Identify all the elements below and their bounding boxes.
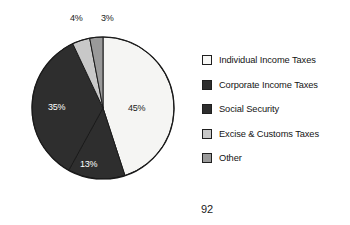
pie-chart-area: 45%13%35%4%3%	[0, 0, 200, 200]
legend-swatch-corporate-income-taxes	[202, 80, 212, 90]
pie-label-excise-customs-taxes: 4%	[70, 13, 83, 23]
legend-item-corporate-income-taxes[interactable]: Corporate Income Taxes	[202, 73, 350, 98]
chart-legend: Individual Income TaxesCorporate Income …	[202, 48, 350, 171]
pie-chart-svg	[0, 0, 200, 200]
legend-swatch-other	[202, 153, 212, 163]
legend-label: Excise & Customs Taxes	[219, 129, 319, 139]
pie-label-individual-income-taxes: 45%	[128, 103, 145, 113]
pie-label-corporate-income-taxes: 13%	[80, 159, 97, 169]
page-number: 92	[201, 203, 213, 215]
legend-swatch-individual-income-taxes	[202, 55, 212, 65]
legend-item-excise-customs-taxes[interactable]: Excise & Customs Taxes	[202, 122, 350, 147]
pie-label-other: 3%	[101, 13, 114, 23]
legend-item-other[interactable]: Other	[202, 146, 350, 171]
legend-label: Social Security	[219, 104, 279, 114]
legend-swatch-excise-customs-taxes	[202, 129, 212, 139]
legend-item-social-security[interactable]: Social Security	[202, 97, 350, 122]
legend-item-individual-income-taxes[interactable]: Individual Income Taxes	[202, 48, 350, 73]
legend-label: Other	[219, 153, 242, 163]
pie-chart-figure: 45%13%35%4%3% Individual Income TaxesCor…	[0, 0, 350, 225]
pie-label-social-security: 35%	[48, 102, 65, 112]
legend-swatch-social-security	[202, 104, 212, 114]
legend-label: Corporate Income Taxes	[219, 80, 318, 90]
legend-label: Individual Income Taxes	[219, 55, 316, 65]
